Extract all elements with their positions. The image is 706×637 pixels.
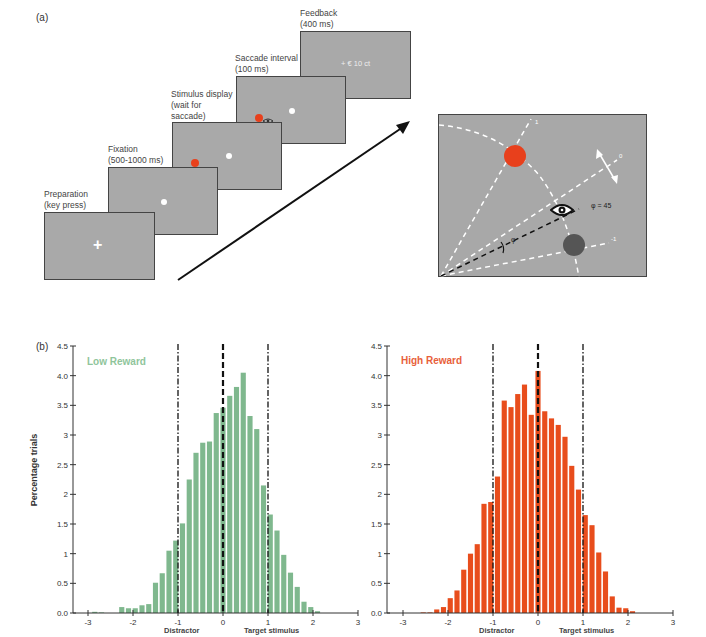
target-label-right: Target stimulus — [559, 626, 614, 635]
histogram-bar — [596, 552, 601, 613]
angle-value-label: φ = 45 — [591, 202, 611, 209]
histogram-bar — [616, 608, 621, 613]
svg-text:3: 3 — [671, 618, 676, 627]
histogram-bar — [603, 571, 608, 613]
svg-text:4.5: 4.5 — [371, 342, 383, 351]
white-dot — [161, 199, 167, 205]
svg-text:0.5: 0.5 — [371, 579, 383, 588]
svg-text:1: 1 — [378, 550, 383, 559]
histogram-bar — [495, 477, 500, 613]
histogram-bar — [461, 570, 466, 613]
step-preparation-label: Preparation (key press) — [44, 189, 88, 211]
histogram-bar — [589, 525, 594, 613]
histogram-bar — [549, 418, 554, 613]
svg-text:0: 0 — [536, 618, 541, 627]
histogram-bar — [475, 544, 480, 613]
histogram-bar — [502, 401, 507, 613]
end-label-1: 1 — [535, 119, 538, 125]
target-red-dot — [504, 145, 526, 167]
svg-text:2: 2 — [626, 618, 631, 627]
histogram-bar — [454, 590, 459, 613]
histogram-bar — [515, 394, 520, 613]
histogram-bar — [562, 437, 567, 613]
histogram-bar — [441, 607, 446, 613]
histogram-bar — [508, 407, 513, 613]
step-fixation-label: Fixation (500-1000 ms) — [108, 144, 163, 166]
histogram-bar — [576, 490, 581, 613]
histogram-bar — [610, 596, 615, 613]
svg-text:0.0: 0.0 — [371, 609, 383, 618]
fixation-cross-icon: + — [93, 236, 102, 254]
svg-text:2: 2 — [378, 490, 383, 499]
eye-icon — [550, 203, 574, 217]
high-reward-histogram: 0.00.511.522.533.54.04.5-3-2-10123 — [0, 335, 706, 637]
histogram-bar — [434, 609, 439, 613]
svg-text:-3: -3 — [399, 618, 407, 627]
histogram-bar — [522, 385, 527, 613]
detail-screen: φ φ = 45 1 0 -1 — [438, 114, 647, 277]
feedback-reward-text: + € 10 ct — [301, 59, 410, 68]
histogram-bar — [542, 411, 547, 613]
step-saccade-label: Saccade interval (100 ms) — [235, 53, 298, 75]
panel-a-label: (a) — [36, 12, 48, 23]
svg-text:3: 3 — [378, 431, 383, 440]
svg-text:4.0: 4.0 — [371, 372, 383, 381]
svg-text:1.5: 1.5 — [371, 520, 383, 529]
end-label-0: 0 — [619, 153, 622, 159]
svg-text:3.5: 3.5 — [371, 401, 383, 410]
end-label-minus1: -1 — [611, 236, 616, 242]
svg-text:2.5: 2.5 — [371, 461, 383, 470]
histogram-bar — [569, 466, 574, 613]
histogram-bar — [481, 504, 486, 613]
histogram-bar — [468, 554, 473, 613]
distractor-dark-dot — [563, 234, 585, 256]
svg-text:-2: -2 — [444, 618, 452, 627]
preparation-screen: + — [44, 212, 155, 280]
angle-label: φ — [511, 236, 516, 243]
white-dot — [289, 108, 295, 114]
histogram-bar — [529, 415, 534, 613]
timeline-arrow — [170, 115, 420, 285]
step-feedback-label: Feedback (400 ms) — [300, 8, 337, 30]
distractor-label-right: Distractor — [479, 626, 514, 635]
histogram-bar — [556, 425, 561, 613]
